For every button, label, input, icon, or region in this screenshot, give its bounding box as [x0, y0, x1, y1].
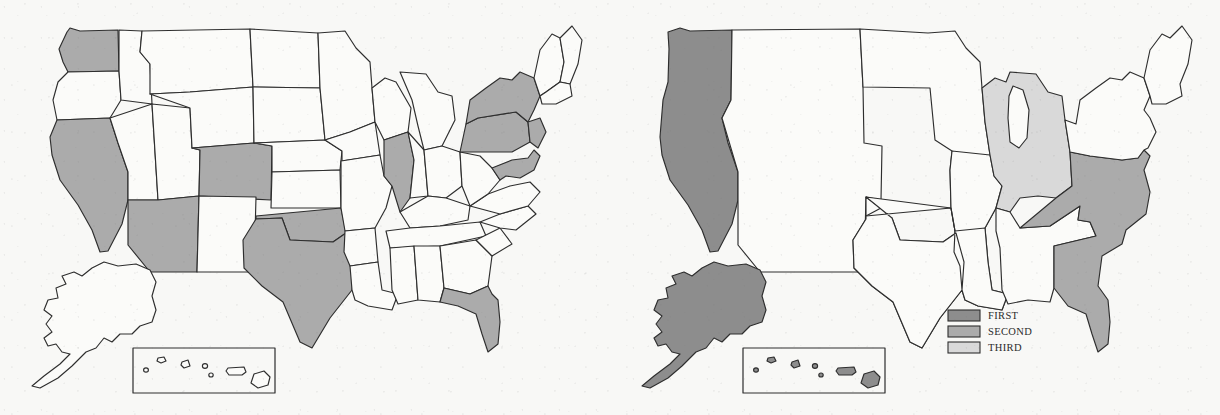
state-mississippi — [390, 246, 418, 304]
region-alaska — [642, 262, 766, 388]
hawaii-islands-group — [754, 357, 880, 388]
state-maryland-delaware — [492, 150, 540, 180]
state-montana — [140, 29, 253, 94]
state-alabama — [414, 246, 444, 302]
state-wisconsin — [372, 78, 411, 140]
hawaii-inset-box — [743, 348, 885, 393]
hawaii-islands-group — [144, 357, 270, 388]
legend-label-third: THIRD — [988, 342, 1022, 353]
region-pacific — [660, 28, 738, 252]
state-washington — [59, 28, 119, 72]
right-map-panel: FIRST SECOND THIRD — [610, 0, 1220, 415]
state-maine — [560, 26, 582, 84]
region-middle-atlantic — [1065, 72, 1156, 160]
legend-label-second: SECOND — [988, 326, 1032, 337]
state-north-dakota — [250, 29, 320, 88]
state-new-jersey — [528, 118, 546, 148]
region-new-england — [1144, 26, 1192, 104]
state-alaska — [32, 262, 156, 388]
legend-swatch-second — [948, 326, 980, 337]
state-arizona — [128, 196, 199, 272]
figure-canvas: FIRST SECOND THIRD — [0, 0, 1220, 415]
state-oregon — [53, 71, 121, 120]
state-minnesota — [318, 31, 375, 140]
state-colorado — [192, 143, 272, 200]
hawaii-big-island — [861, 371, 880, 388]
legend-swatch-first — [948, 310, 980, 321]
legend-label-first: FIRST — [988, 310, 1019, 321]
state-kansas — [271, 170, 341, 208]
state-south-dakota — [253, 87, 325, 143]
state-kentucky — [400, 196, 470, 228]
state-florida — [440, 286, 500, 352]
hawaii-inset-box — [133, 348, 275, 393]
left-map-panel — [0, 0, 610, 415]
legend: FIRST SECOND THIRD — [948, 310, 1032, 353]
state-ohio — [424, 146, 462, 198]
state-arkansas — [344, 228, 378, 266]
legend-swatch-third — [948, 342, 980, 353]
